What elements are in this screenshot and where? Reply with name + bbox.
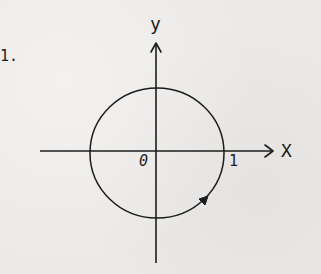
orientation-arrow-icon: [199, 196, 208, 205]
origin-label: 0: [139, 154, 148, 169]
unit-tick-label: 1: [229, 154, 238, 169]
diagram-canvas: [0, 0, 321, 274]
x-axis-label: X: [281, 142, 292, 160]
y-axis-label: y: [150, 15, 161, 33]
problem-number: 1.: [0, 49, 18, 64]
